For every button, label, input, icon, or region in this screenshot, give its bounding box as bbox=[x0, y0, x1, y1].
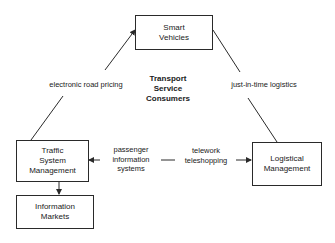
arrow-line bbox=[248, 98, 277, 142]
node-traffic-system-management: Traffic System Management bbox=[16, 140, 89, 182]
center-label: Transport Service Consumers bbox=[138, 74, 198, 104]
node-information-markets: Information Markets bbox=[16, 195, 94, 229]
arrow-line bbox=[31, 96, 63, 140]
edge-label-just-in-time-logistics: just-in-time logistics bbox=[219, 80, 309, 90]
edge-label-passenger-information-systems: passenger information systems bbox=[100, 145, 162, 174]
arrow-line bbox=[213, 30, 240, 72]
node-smart-vehicles: Smart Vehicles bbox=[135, 15, 213, 50]
node-logistical-management: Logistical Management bbox=[252, 142, 322, 186]
arrow-line bbox=[105, 30, 135, 70]
edge-label-telework-teleshopping: telework teleshopping bbox=[176, 146, 236, 165]
edge-label-electronic-road-pricing: electronic road pricing bbox=[38, 80, 134, 90]
